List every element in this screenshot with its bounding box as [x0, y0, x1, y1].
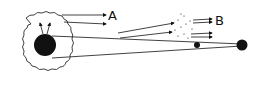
arrow-b-2 [193, 22, 212, 23]
arrow-b-3 [191, 33, 212, 34]
small-black-dot [194, 42, 200, 48]
arrow-b-1 [193, 19, 212, 20]
scatter-dots [174, 13, 192, 38]
arrow-a-2 [64, 22, 106, 24]
ray-top [52, 36, 242, 44]
distant-black-sphere [237, 40, 248, 51]
ray-bottom [52, 46, 242, 58]
up-arrow-2 [47, 23, 50, 34]
label-a: A [108, 9, 117, 22]
label-b: B [215, 14, 224, 27]
large-black-sphere [34, 34, 56, 56]
up-arrow-1 [40, 23, 43, 34]
arrow-to-scatter-2 [120, 32, 172, 38]
arrow-to-scatter-1 [118, 23, 174, 33]
diagram-canvas: A B [0, 0, 258, 90]
